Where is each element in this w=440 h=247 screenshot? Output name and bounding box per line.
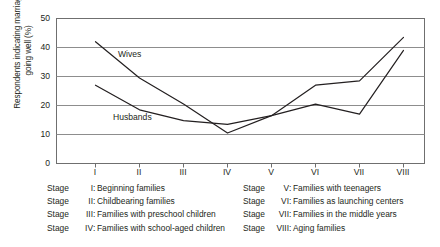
legend-stage-description: Families with preschool children bbox=[97, 208, 216, 221]
legend-stage-numeral: VII bbox=[269, 208, 289, 221]
x-tick-label-viii: VIII bbox=[383, 167, 423, 177]
stage-legend-column-right: Stage V : Families with teenagers Stage … bbox=[243, 182, 440, 235]
figure-marriage-satisfaction-by-family-stage: Respondents indicating marriage going we… bbox=[0, 0, 440, 247]
legend-stage-word: Stage bbox=[243, 208, 269, 221]
legend-item-stage-iv: Stage IV : Families with school-aged chi… bbox=[47, 222, 257, 235]
legend-stage-numeral: I bbox=[73, 182, 93, 195]
x-tick-label-iv: IV bbox=[207, 167, 247, 177]
series-annotation-wives: Wives bbox=[118, 49, 141, 59]
y-tick-label-10: 10 bbox=[28, 129, 50, 139]
legend-stage-description: Beginning families bbox=[97, 182, 165, 195]
legend-item-stage-ii: Stage II : Childbearing families bbox=[47, 195, 257, 208]
x-tick-label-i: I bbox=[75, 167, 115, 177]
x-tick-label-iii: III bbox=[163, 167, 203, 177]
x-tick-label-v: V bbox=[251, 167, 291, 177]
legend-stage-description: Families with school-aged children bbox=[97, 222, 225, 235]
legend-stage-word: Stage bbox=[47, 222, 73, 235]
legend-stage-description: Families with teenagers bbox=[293, 182, 381, 195]
stage-legend: Stage I : Beginning families Stage II : … bbox=[0, 182, 440, 244]
legend-stage-description: Families as launching centers bbox=[293, 195, 403, 208]
legend-item-stage-iii: Stage III : Families with preschool chil… bbox=[47, 208, 257, 221]
legend-stage-description: Families in the middle years bbox=[293, 208, 397, 221]
legend-item-stage-viii: Stage VIII : Aging families bbox=[243, 222, 440, 235]
legend-stage-word: Stage bbox=[243, 222, 269, 235]
stage-legend-column-left: Stage I : Beginning families Stage II : … bbox=[47, 182, 257, 235]
legend-stage-numeral: III bbox=[73, 208, 93, 221]
plot-frame bbox=[57, 19, 425, 164]
legend-stage-numeral: II bbox=[73, 195, 93, 208]
legend-stage-word: Stage bbox=[47, 195, 73, 208]
y-tick-label-0: 0 bbox=[28, 158, 50, 168]
x-tick-label-vi: VI bbox=[295, 167, 335, 177]
legend-stage-numeral: VI bbox=[269, 195, 289, 208]
legend-stage-word: Stage bbox=[243, 182, 269, 195]
y-tick-label-50: 50 bbox=[28, 13, 50, 23]
legend-item-stage-i: Stage I : Beginning families bbox=[47, 182, 257, 195]
legend-stage-description: Childbearing families bbox=[97, 195, 175, 208]
legend-item-stage-vii: Stage VII : Families in the middle years bbox=[243, 208, 440, 221]
line-chart-svg bbox=[0, 0, 440, 180]
y-tick-label-40: 40 bbox=[28, 42, 50, 52]
legend-stage-description: Aging families bbox=[293, 222, 345, 235]
legend-stage-word: Stage bbox=[47, 208, 73, 221]
series-annotation-husbands: Husbands bbox=[113, 112, 152, 122]
y-tick-label-30: 30 bbox=[28, 71, 50, 81]
legend-item-stage-v: Stage V : Families with teenagers bbox=[243, 182, 440, 195]
chart-plot-area: Respondents indicating marriage going we… bbox=[0, 0, 440, 180]
y-tick-label-20: 20 bbox=[28, 100, 50, 110]
x-tick-label-vii: VII bbox=[339, 167, 379, 177]
legend-stage-numeral: VIII bbox=[269, 222, 289, 235]
legend-stage-numeral: V bbox=[269, 182, 289, 195]
legend-stage-word: Stage bbox=[243, 195, 269, 208]
x-tick-label-ii: II bbox=[119, 167, 159, 177]
legend-stage-numeral: IV bbox=[73, 222, 93, 235]
legend-item-stage-vi: Stage VI : Families as launching centers bbox=[243, 195, 440, 208]
legend-stage-word: Stage bbox=[47, 182, 73, 195]
